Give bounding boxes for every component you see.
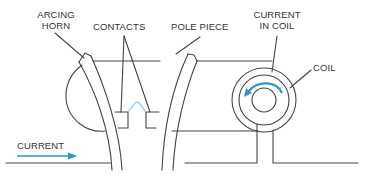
coil-lead-right bbox=[273, 130, 358, 163]
label-arcing-horn-line2: HORN bbox=[34, 20, 78, 31]
arcing-horn-left-cap bbox=[79, 53, 91, 62]
label-arcing-horn: ARCING HORN bbox=[34, 9, 78, 31]
label-pole-piece: POLE PIECE bbox=[171, 21, 229, 32]
label-current-in-coil: CURRENT IN COIL bbox=[252, 9, 302, 31]
label-arcing-horn-line1: ARCING bbox=[34, 9, 78, 20]
contact-right bbox=[146, 112, 159, 128]
contact-left bbox=[115, 112, 128, 128]
coil-lead-left bbox=[185, 124, 257, 163]
label-current-in-coil-line2: IN COIL bbox=[252, 20, 302, 31]
leader-coil bbox=[290, 70, 311, 88]
current-arrowhead bbox=[68, 153, 77, 160]
leader-pole-piece bbox=[176, 37, 200, 54]
arcing-horn-right-cap bbox=[188, 54, 197, 61]
leader-contacts-left bbox=[121, 36, 124, 112]
leader-arcing-horn bbox=[55, 33, 84, 58]
label-current-in-coil-line1: CURRENT bbox=[252, 9, 302, 20]
arcing-horn-right-inner bbox=[162, 54, 188, 170]
label-contacts: CONTACTS bbox=[93, 21, 145, 32]
arcing-horn-left-outer bbox=[79, 62, 112, 170]
arcing-horn-left-inner bbox=[91, 56, 122, 170]
label-current: CURRENT bbox=[17, 140, 64, 151]
coil-outer-circle bbox=[232, 68, 296, 132]
coil-inner-circle bbox=[252, 88, 276, 112]
leader-current-in-coil bbox=[272, 36, 277, 72]
leader-contacts-right bbox=[124, 36, 150, 112]
arc-glow bbox=[128, 102, 146, 112]
magnetic-blowout-diagram: ARCING HORN CONTACTS POLE PIECE CURRENT … bbox=[0, 0, 365, 179]
arcing-horn-right-outer bbox=[173, 61, 197, 170]
label-coil: COIL bbox=[313, 62, 336, 73]
